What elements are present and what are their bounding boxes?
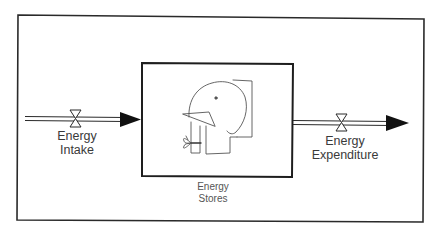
- stock-box: [142, 63, 293, 177]
- inflow-pipe: [25, 112, 141, 127]
- inflow-label-line1: Energy: [17, 129, 137, 143]
- outflow-label-line1: Energy: [285, 134, 405, 148]
- stock-label-line2: Stores: [173, 193, 253, 205]
- inflow-label-line2: Intake: [17, 143, 137, 157]
- valve-icon[interactable]: [336, 114, 347, 131]
- elephant-icon: [183, 80, 252, 154]
- inflow-arrowhead: [120, 112, 141, 127]
- inflow-label: Energy Intake: [17, 129, 137, 158]
- outflow-arrowhead: [386, 115, 409, 131]
- valve-icon[interactable]: [70, 110, 81, 127]
- outflow-pipe: [293, 115, 409, 131]
- outflow-label-line2: Expenditure: [285, 148, 405, 162]
- stock-label-line1: Energy: [173, 181, 253, 193]
- outflow-label: Energy Expenditure: [285, 134, 405, 163]
- stock-label: Energy Stores: [173, 181, 253, 204]
